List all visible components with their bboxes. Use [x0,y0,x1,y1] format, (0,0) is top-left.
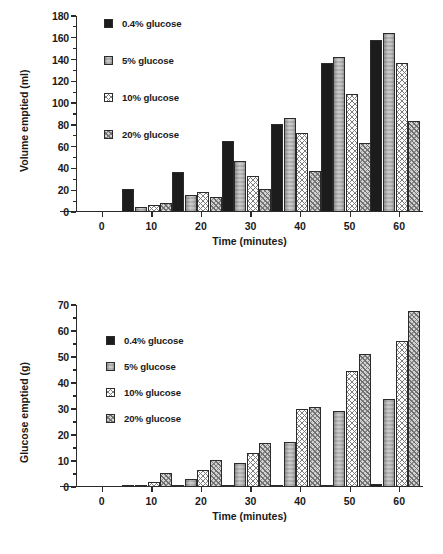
x-tick-label: 20 [195,495,207,507]
bar [359,143,371,212]
bar [271,485,283,487]
y-tick-minor [73,92,76,93]
y-tick-label: 20 [58,184,69,196]
y-tick-minor [73,157,76,158]
legend-label: 10% glucose [124,387,181,398]
bar [333,57,345,212]
x-tick [201,212,202,217]
bar [408,121,420,212]
legend-swatch-icon [106,336,115,345]
y-tick-minor [73,447,76,448]
y-tick-label: 160 [52,32,69,44]
y-axis-title-volume: Volume emptied (ml) [18,70,30,172]
bar [247,176,259,212]
y-tick-minor [73,113,76,114]
y-tick-major [71,190,76,191]
legend-item: 10% glucose [104,92,179,103]
x-tick-label: 10 [146,220,158,232]
x-axis-title-glucose: Time (minutes) [212,510,286,522]
y-tick-label: 10 [58,455,69,467]
bar [309,407,321,487]
x-tick-label: 60 [393,220,405,232]
legend-item: 20% glucose [106,413,181,424]
chart-glucose-emptied: 010203040506070 0102030405060 Time (minu… [0,277,443,554]
y-tick-label: 180 [52,10,69,22]
legend-swatch-icon [104,130,113,139]
legend-label: 10% glucose [122,92,179,103]
y-tick-minor [73,201,76,202]
y-tick-minor [73,473,76,474]
bar [296,409,308,487]
y-axis-line-glucose [76,305,77,487]
y-tick-label: 30 [58,403,69,415]
y-tick-major [71,382,76,383]
legend-item: 5% glucose [104,55,174,66]
y-tick-label: 70 [58,299,69,311]
x-tick [300,212,301,217]
bar [309,171,321,212]
legend-swatch-icon [106,362,115,371]
plot-area-glucose: 010203040506070 0102030405060 Time (minu… [76,305,423,487]
y-tick-minor [73,421,76,422]
y-tick-major [71,304,76,305]
bar [396,341,408,487]
y-tick-label: 120 [52,75,69,87]
y-tick-minor [73,135,76,136]
bar [259,189,271,212]
y-tick-major [71,37,76,38]
x-tick [399,487,400,492]
x-tick-label: 0 [99,495,105,507]
plot-area-volume: 020406080100120140160180 0102030405060 T… [76,16,423,212]
bar [148,482,160,487]
y-tick-major [71,211,76,212]
x-tick-label: 30 [245,495,257,507]
bar [197,192,209,212]
y-tick-major [71,356,76,357]
legend-swatch-icon [106,414,115,423]
y-tick-major [71,408,76,409]
legend-item: 20% glucose [104,129,179,140]
y-tick-label: 50 [58,351,69,363]
bar [247,453,259,487]
bar [271,124,283,212]
x-tick [102,487,103,492]
bar [172,485,184,487]
y-axis-title-glucose: Glucose emptied (g) [18,362,30,463]
x-tick-label: 50 [344,220,356,232]
y-tick-minor [73,317,76,318]
x-tick [151,487,152,492]
x-tick [399,212,400,217]
y-tick-label: 80 [58,119,69,131]
y-tick-minor [73,179,76,180]
bar [284,442,296,487]
y-tick-minor [73,70,76,71]
bar [222,485,234,487]
legend-item: 10% glucose [106,387,181,398]
x-tick-label: 60 [393,495,405,507]
y-tick-label: 100 [52,97,69,109]
bar [370,484,382,487]
x-tick-label: 40 [294,220,306,232]
bar [359,354,371,487]
bar [122,189,134,212]
bar [284,118,296,212]
x-tick-label: 50 [344,495,356,507]
bar [383,33,395,212]
figure-two-bar-charts: 020406080100120140160180 0102030405060 T… [0,0,443,554]
y-tick-minor [73,48,76,49]
x-tick [250,212,251,217]
legend-item: 5% glucose [106,361,176,372]
legend-item: 0.4% glucose [104,18,182,29]
legend-label: 20% glucose [122,129,179,140]
x-tick [250,487,251,492]
legend-label: 0.4% glucose [122,18,182,29]
y-tick-minor [73,26,76,27]
y-tick-major [71,59,76,60]
y-tick-label: 60 [58,141,69,153]
bar [383,399,395,487]
x-tick [350,212,351,217]
x-tick-label: 40 [294,495,306,507]
bar [321,63,333,212]
legend-swatch-icon [104,56,113,65]
x-tick [350,487,351,492]
